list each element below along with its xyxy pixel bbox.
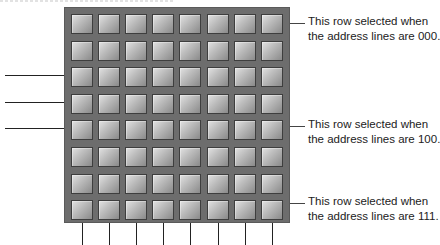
memory-cell bbox=[261, 147, 283, 167]
annotation-row-000: This row selected when the address lines… bbox=[308, 14, 440, 44]
memory-cell bbox=[207, 120, 229, 140]
memory-cell bbox=[179, 147, 201, 167]
memory-cell bbox=[179, 120, 201, 140]
memory-cell bbox=[152, 67, 174, 87]
memory-cell bbox=[234, 147, 256, 167]
memory-cell bbox=[125, 120, 147, 140]
column-line bbox=[163, 223, 164, 245]
memory-cell bbox=[71, 174, 93, 194]
memory-cell bbox=[234, 14, 256, 34]
memory-cell bbox=[261, 120, 283, 140]
memory-cell bbox=[152, 41, 174, 61]
column-line bbox=[82, 223, 83, 245]
memory-cell bbox=[234, 67, 256, 87]
memory-cell bbox=[71, 147, 93, 167]
memory-cell bbox=[261, 67, 283, 87]
memory-cell bbox=[125, 200, 147, 220]
memory-cell bbox=[152, 94, 174, 114]
memory-cell bbox=[98, 120, 120, 140]
memory-cell bbox=[261, 14, 283, 34]
column-line bbox=[109, 223, 110, 245]
memory-cell bbox=[71, 41, 93, 61]
memory-cell bbox=[98, 147, 120, 167]
memory-cell bbox=[179, 200, 201, 220]
memory-cell bbox=[234, 174, 256, 194]
memory-cell bbox=[207, 174, 229, 194]
memory-cell bbox=[207, 14, 229, 34]
memory-cell bbox=[207, 200, 229, 220]
annotation-row-111: This row selected when the address lines… bbox=[308, 194, 439, 224]
column-line bbox=[272, 223, 273, 245]
annotation-line-1: This row selected when bbox=[308, 194, 439, 209]
memory-cell bbox=[261, 94, 283, 114]
memory-cell bbox=[179, 94, 201, 114]
memory-cell bbox=[98, 67, 120, 87]
memory-cell bbox=[98, 94, 120, 114]
memory-cell bbox=[98, 14, 120, 34]
memory-cell bbox=[234, 120, 256, 140]
annotation-row-100: This row selected when the address lines… bbox=[308, 117, 440, 147]
address-line-1 bbox=[5, 75, 64, 76]
memory-cell bbox=[179, 174, 201, 194]
memory-cell bbox=[234, 41, 256, 61]
memory-cell bbox=[71, 14, 93, 34]
memory-cell bbox=[261, 200, 283, 220]
column-line bbox=[218, 223, 219, 245]
memory-cell bbox=[152, 120, 174, 140]
memory-cell bbox=[125, 41, 147, 61]
memory-cell bbox=[71, 200, 93, 220]
memory-cell bbox=[152, 147, 174, 167]
memory-cell bbox=[152, 174, 174, 194]
memory-cell bbox=[207, 67, 229, 87]
memory-cell bbox=[152, 14, 174, 34]
annotation-line-2: the address lines are 111. bbox=[308, 209, 439, 224]
memory-cell bbox=[125, 67, 147, 87]
memory-cell bbox=[261, 174, 283, 194]
memory-cell bbox=[207, 41, 229, 61]
memory-cell bbox=[179, 41, 201, 61]
address-line-3 bbox=[5, 128, 64, 129]
memory-cell bbox=[234, 94, 256, 114]
column-line bbox=[245, 223, 246, 245]
memory-cell bbox=[179, 67, 201, 87]
annotation-line-2: the address lines are 000. bbox=[308, 29, 440, 44]
memory-cell bbox=[125, 14, 147, 34]
memory-cell bbox=[125, 94, 147, 114]
address-line-2 bbox=[5, 102, 64, 103]
column-line bbox=[136, 223, 137, 245]
cropped-caption-text bbox=[0, 0, 175, 2]
memory-cell bbox=[179, 14, 201, 34]
memory-cell bbox=[207, 147, 229, 167]
memory-cell bbox=[261, 41, 283, 61]
memory-cell bbox=[207, 94, 229, 114]
annotation-line-1: This row selected when bbox=[308, 14, 440, 29]
memory-cell bbox=[152, 200, 174, 220]
annotation-line-2: the address lines are 100. bbox=[308, 132, 440, 147]
leader-line-row-100 bbox=[290, 126, 305, 127]
memory-cell bbox=[71, 120, 93, 140]
memory-cell bbox=[234, 200, 256, 220]
memory-cell bbox=[98, 174, 120, 194]
annotation-line-1: This row selected when bbox=[308, 117, 440, 132]
leader-line-row-111 bbox=[290, 203, 305, 204]
leader-line-row-000 bbox=[290, 23, 305, 24]
memory-cell bbox=[125, 174, 147, 194]
memory-cell bbox=[71, 94, 93, 114]
memory-cell bbox=[98, 200, 120, 220]
memory-cell bbox=[71, 67, 93, 87]
memory-cell bbox=[125, 147, 147, 167]
memory-cell-grid bbox=[64, 7, 290, 223]
memory-cell bbox=[98, 41, 120, 61]
column-line bbox=[190, 223, 191, 245]
